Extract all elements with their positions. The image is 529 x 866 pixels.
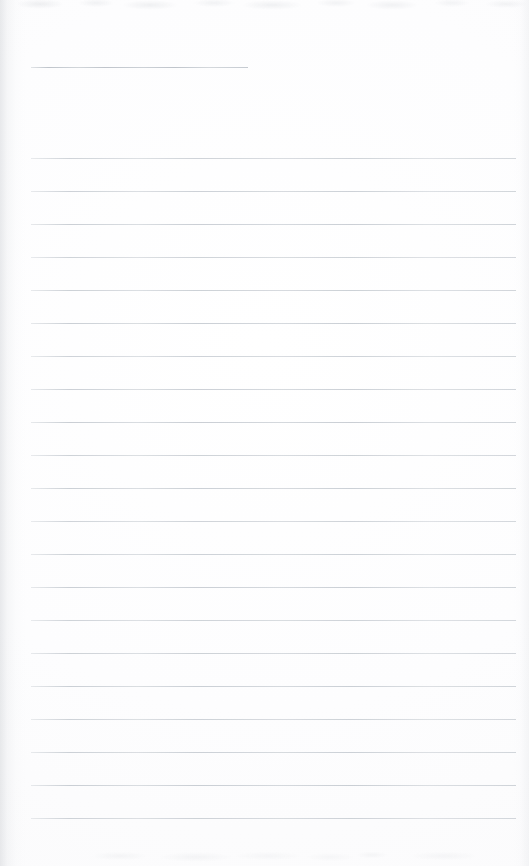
scanned-page [0,0,529,866]
paper-surface [0,0,529,866]
